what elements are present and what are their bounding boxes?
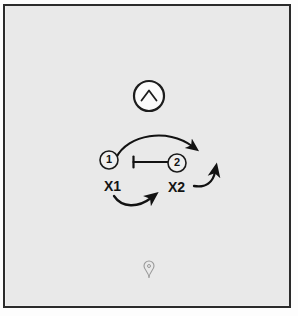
player-1-label: 1: [102, 154, 116, 165]
player-2-label: 2: [170, 157, 184, 168]
screenshot-root: 1 2 X1 X2: [0, 0, 298, 316]
defender-x2-label: X2: [168, 179, 185, 195]
court-surface: [5, 6, 289, 306]
diagram-frame: [3, 4, 291, 308]
defender-x1-label: X1: [104, 178, 121, 194]
